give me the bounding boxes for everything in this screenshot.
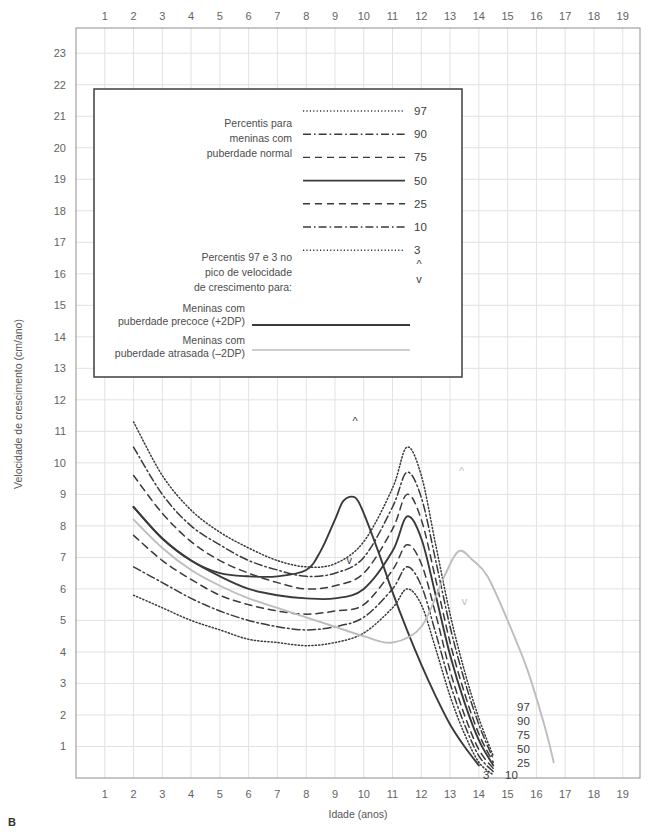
x-tick-label-top: 14 (473, 10, 485, 22)
y-tick-label: 1 (60, 740, 66, 752)
x-tick-label-top: 7 (274, 10, 280, 22)
curve-end-label-p90: 90 (517, 715, 530, 727)
curve-end-label-p75: 75 (517, 729, 530, 741)
x-tick-label-top: 11 (387, 10, 398, 22)
y-tick-label: 21 (54, 110, 66, 122)
percentile-curves (134, 422, 554, 775)
legend-percentile-value-10: 10 (414, 221, 427, 233)
x-tick-label-bottom: 2 (130, 788, 136, 800)
legend-percentile-value-50: 50 (414, 175, 427, 187)
legend-title-normal-line: Percentis para (224, 117, 292, 129)
y-tick-label: 20 (54, 142, 66, 154)
legend-title-peak-line: de crescimento para: (194, 281, 292, 293)
curve-end-label-p50: 50 (517, 743, 530, 755)
x-tick-label-bottom: 5 (217, 788, 223, 800)
x-tick-label-top: 16 (530, 10, 542, 22)
percentile-curve-50 (134, 507, 494, 765)
x-tick-label-top: 4 (188, 10, 194, 22)
x-tick-label-top: 2 (130, 10, 136, 22)
legend-box: Percentis parameninas compuberdade norma… (94, 89, 462, 377)
x-tick-label-bottom: 16 (530, 788, 542, 800)
y-axis-title: Velocidade de crescimento (cm/ano) (12, 319, 24, 489)
y-tick-label: 18 (54, 205, 66, 217)
x-axis-ticks-bottom: 12345678910111213141516171819 (102, 788, 629, 800)
x-tick-label-top: 3 (159, 10, 165, 22)
legend-percentile-value-90: 90 (414, 128, 427, 140)
x-tick-label-top: 19 (617, 10, 629, 22)
x-tick-label-bottom: 3 (159, 788, 165, 800)
y-tick-label: 7 (60, 551, 66, 563)
legend-marker-down-icon: v (416, 273, 422, 285)
legend-late-puberty-label: Meninas com (183, 334, 246, 346)
legend-title-peak-line: pico de velocidade (205, 266, 292, 278)
y-tick-label: 16 (54, 268, 66, 280)
y-tick-label: 9 (60, 488, 66, 500)
y-axis-ticks: 1234567891011121314151617181920212223 (54, 47, 66, 752)
x-tick-label-bottom: 12 (415, 788, 427, 800)
x-tick-label-bottom: 11 (387, 788, 398, 800)
y-tick-label: 19 (54, 173, 66, 185)
y-tick-label: 2 (60, 709, 66, 721)
y-tick-label: 11 (55, 425, 66, 437)
percentile-curve-10 (134, 567, 494, 772)
legend-percentile-value-75: 75 (414, 151, 427, 163)
growth-velocity-chart: 12345678910111213141516171819 1234567891… (0, 0, 657, 834)
legend-title-peak-line: Percentis 97 e 3 no (202, 251, 293, 263)
x-tick-label-top: 8 (303, 10, 309, 22)
x-axis-title: Idade (anos) (329, 808, 388, 820)
x-tick-label-bottom: 17 (559, 788, 571, 800)
legend-title-normal-line: puberdade normal (207, 147, 292, 159)
x-tick-label-top: 1 (102, 10, 108, 22)
y-tick-label: 22 (54, 79, 66, 91)
legend-title-normal-line: meninas com (230, 132, 293, 144)
x-tick-label-bottom: 6 (246, 788, 252, 800)
x-tick-label-bottom: 15 (502, 788, 514, 800)
panel-letter: B (8, 816, 16, 828)
x-tick-label-top: 5 (217, 10, 223, 22)
x-tick-label-top: 18 (588, 10, 600, 22)
legend-early-puberty-label: puberdade precoce (+2DP) (118, 315, 245, 327)
y-tick-label: 8 (60, 520, 66, 532)
x-tick-label-bottom: 1 (102, 788, 108, 800)
x-tick-label-bottom: 13 (444, 788, 456, 800)
x-tick-label-top: 12 (415, 10, 427, 22)
x-tick-label-bottom: 7 (274, 788, 280, 800)
y-tick-label: 15 (54, 299, 66, 311)
x-tick-label-bottom: 9 (332, 788, 338, 800)
curve-end-label-p25: 25 (517, 757, 530, 769)
x-tick-label-top: 9 (332, 10, 338, 22)
peak-marker-up: ^ (459, 465, 465, 477)
legend-percentile-value-3: 3 (414, 244, 420, 256)
curve-end-label-p97: 97 (517, 701, 530, 713)
peak-marker-down: v (347, 554, 353, 566)
x-tick-label-top: 17 (559, 10, 571, 22)
x-tick-label-bottom: 18 (588, 788, 600, 800)
y-tick-label: 5 (60, 614, 66, 626)
plot-annotation-markers: ^v^v (347, 415, 468, 607)
x-tick-label-bottom: 8 (303, 788, 309, 800)
y-tick-label: 3 (60, 677, 66, 689)
legend-late-puberty-label: puberdade atrasada (–2DP) (115, 347, 245, 359)
legend-marker-up-icon: ^ (416, 258, 422, 270)
y-tick-label: 12 (54, 394, 66, 406)
legend-percentile-value-97: 97 (414, 105, 427, 117)
y-tick-label: 6 (60, 583, 66, 595)
y-tick-label: 14 (54, 331, 66, 343)
x-axis-ticks-top: 12345678910111213141516171819 (102, 10, 629, 22)
x-tick-label-bottom: 14 (473, 788, 485, 800)
peak-marker-up: ^ (353, 415, 359, 427)
x-tick-label-top: 13 (444, 10, 456, 22)
x-tick-label-top: 6 (246, 10, 252, 22)
legend-percentile-value-25: 25 (414, 198, 427, 210)
curve-end-label-p3: 3 (483, 769, 489, 781)
x-tick-label-bottom: 10 (358, 788, 370, 800)
curve-end-label-p10: 10 (505, 769, 518, 781)
y-tick-label: 17 (54, 236, 66, 248)
legend-early-puberty-label: Meninas com (183, 302, 246, 314)
chart-canvas: 12345678910111213141516171819 1234567891… (0, 0, 657, 834)
x-tick-label-bottom: 4 (188, 788, 194, 800)
x-tick-label-top: 15 (502, 10, 514, 22)
peak-marker-down: v (462, 595, 468, 607)
x-tick-label-top: 10 (358, 10, 370, 22)
y-tick-label: 10 (54, 457, 66, 469)
